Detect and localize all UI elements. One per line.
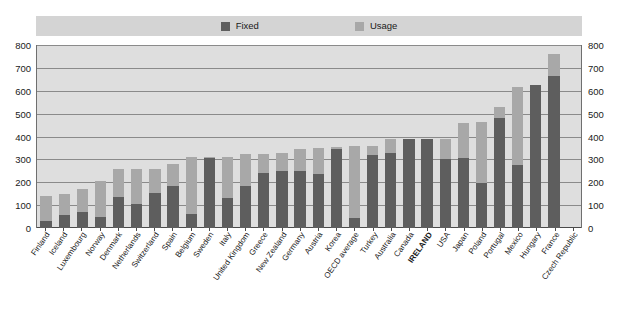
square-swatch-icon	[221, 22, 230, 31]
bar-segment-usage	[349, 146, 360, 218]
bar-stack[interactable]	[186, 157, 197, 228]
bar-segment-fixed	[294, 171, 305, 228]
x-label-slot: United Kingdom	[236, 229, 254, 311]
bar-stack[interactable]	[276, 153, 287, 228]
bar-segment-usage	[167, 164, 178, 186]
x-label-slot: Netherlands	[127, 229, 145, 311]
y-tick-label-left: 500	[5, 109, 31, 120]
bar-segment-usage	[149, 169, 160, 193]
bar-slot	[436, 45, 454, 228]
bar-stack[interactable]	[204, 157, 215, 228]
bar-segment-usage	[222, 157, 233, 198]
plot-area	[36, 45, 582, 228]
x-axis-labels: FinlandIcelandLuxembourgNorwayDenmarkNet…	[36, 229, 582, 311]
y-tick-label-left: 600	[5, 86, 31, 97]
y-tick-label-right: 600	[588, 86, 614, 97]
y-tick-label-left: 0	[5, 223, 31, 234]
bar-stack[interactable]	[40, 196, 51, 228]
bar-slot	[364, 45, 382, 228]
x-label-slot: Poland	[473, 229, 491, 311]
bar-stack[interactable]	[167, 164, 178, 228]
bar-segment-fixed	[403, 139, 414, 228]
x-axis-label: USA	[436, 231, 452, 249]
bar-segment-fixed	[367, 155, 378, 228]
bar-stack[interactable]	[421, 139, 432, 228]
bar-stack[interactable]	[403, 139, 414, 228]
bar-slot	[128, 45, 146, 228]
bar-stack[interactable]	[530, 85, 541, 228]
bar-stack[interactable]	[95, 181, 106, 228]
bar-stack[interactable]	[77, 189, 88, 228]
bar-segment-fixed	[240, 186, 251, 228]
bar-segment-usage	[95, 181, 106, 216]
bar-segment-fixed	[548, 76, 559, 228]
bar-stack[interactable]	[367, 146, 378, 228]
bar-slot	[91, 45, 109, 228]
bar-slot	[182, 45, 200, 228]
bar-segment-fixed	[59, 215, 70, 228]
x-label-slot: Switzerland	[145, 229, 163, 311]
x-label-slot: Turkey	[364, 229, 382, 311]
bar-segment-usage	[294, 149, 305, 171]
bar-stack[interactable]	[458, 123, 469, 228]
bar-segment-fixed	[476, 183, 487, 228]
bar-segment-fixed	[331, 149, 342, 228]
bar-segment-usage	[186, 157, 197, 214]
bar-stack[interactable]	[222, 157, 233, 228]
y-tick-label-left: 700	[5, 63, 31, 74]
bar-slot	[146, 45, 164, 228]
bar-slot	[400, 45, 418, 228]
bar-stack[interactable]	[512, 87, 523, 228]
y-tick-label-right: 500	[588, 109, 614, 120]
bar-segment-usage	[240, 154, 251, 186]
legend-item-usage: Usage	[355, 21, 397, 31]
bar-slot	[563, 45, 581, 228]
y-tick-label-left: 200	[5, 177, 31, 188]
square-swatch-icon	[355, 22, 364, 31]
bar-segment-fixed	[204, 158, 215, 228]
bar-slot	[273, 45, 291, 228]
bar-segment-fixed	[385, 153, 396, 228]
x-label-slot: Luxembourg	[72, 229, 90, 311]
bar-segment-fixed	[40, 221, 51, 228]
bar-stack[interactable]	[258, 154, 269, 228]
x-label-slot: Finland	[36, 229, 54, 311]
bar-slot	[327, 45, 345, 228]
bar-stack[interactable]	[331, 147, 342, 228]
bar-slot	[527, 45, 545, 228]
y-tick-label-left: 400	[5, 132, 31, 143]
bar-segment-usage	[113, 169, 124, 198]
bar-stack[interactable]	[349, 146, 360, 228]
bar-segment-fixed	[494, 118, 505, 228]
bar-segment-usage	[440, 139, 451, 160]
bar-stack[interactable]	[494, 107, 505, 228]
bar-segment-usage	[276, 153, 287, 171]
bar-stack[interactable]	[59, 194, 70, 228]
bar-stack[interactable]	[548, 54, 559, 228]
bar-segment-fixed	[131, 204, 142, 228]
bar-stack[interactable]	[476, 122, 487, 228]
bar-stack[interactable]	[149, 169, 160, 228]
y-tick-label-right: 800	[588, 40, 614, 51]
y-tick-label-right: 200	[588, 177, 614, 188]
bar-slot	[509, 45, 527, 228]
bar-stack[interactable]	[294, 149, 305, 228]
bar-slot	[110, 45, 128, 228]
bar-segment-fixed	[258, 173, 269, 228]
bar-slot	[309, 45, 327, 228]
y-tick-label-right: 700	[588, 63, 614, 74]
bar-stack[interactable]	[240, 154, 251, 228]
y-tick-label-right: 100	[588, 200, 614, 211]
bar-stack[interactable]	[131, 169, 142, 228]
x-label-slot: Mexico	[509, 229, 527, 311]
bar-stack[interactable]	[313, 148, 324, 228]
bar-segment-fixed	[421, 139, 432, 228]
bar-slot	[418, 45, 436, 228]
bar-segment-usage	[548, 54, 559, 76]
bar-stack[interactable]	[385, 139, 396, 228]
bar-stack[interactable]	[113, 169, 124, 228]
bar-slot	[472, 45, 490, 228]
bar-slot	[545, 45, 563, 228]
bar-stack[interactable]	[440, 139, 451, 228]
y-tick-label-left: 100	[5, 200, 31, 211]
